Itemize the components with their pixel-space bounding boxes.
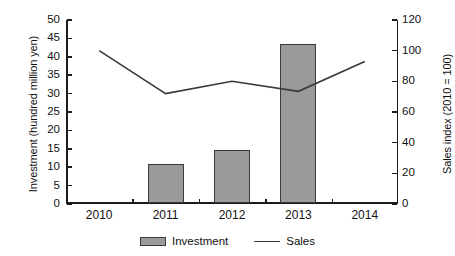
- chart-legend: Investment Sales: [0, 231, 455, 251]
- y-axis-right-tick-label: 100: [402, 45, 426, 56]
- y-axis-left-tick-labels: 50454035302520151050: [24, 0, 60, 256]
- y-axis-right-tick-label: 0: [402, 198, 426, 209]
- y-axis-left-tick-label: 0: [38, 198, 60, 209]
- y-axis-right-tick-label: 40: [402, 137, 426, 148]
- y-axis-right-tick-label: 120: [402, 14, 426, 25]
- legend-item-sales: Sales: [254, 235, 315, 247]
- y-axis-left-tick-label: 5: [38, 180, 60, 191]
- y-axis-left-tick-label: 30: [38, 88, 60, 99]
- line-series-sales: [66, 20, 398, 204]
- plot-area: [66, 20, 398, 204]
- legend-label-sales: Sales: [286, 235, 315, 247]
- x-axis-label-2012: 2012: [209, 208, 255, 222]
- x-axis-label-2010: 2010: [76, 208, 122, 222]
- legend-item-investment: Investment: [140, 235, 228, 247]
- chart-figure: Investment (hundred million yen) Sales i…: [0, 0, 455, 256]
- y-axis-left-tick-label: 10: [38, 161, 60, 172]
- y-axis-left-tick-label: 20: [38, 124, 60, 135]
- y-axis-left-tick-label: 50: [38, 14, 60, 25]
- legend-bar-swatch-icon: [140, 237, 166, 246]
- x-axis-label-2014: 2014: [342, 208, 388, 222]
- y-axis-left-tick-label: 45: [38, 32, 60, 43]
- y-axis-right-tick-label: 80: [402, 75, 426, 86]
- y-axis-right-tick-labels: 120100806040200: [402, 0, 432, 256]
- y-axis-left-tick-label: 35: [38, 69, 60, 80]
- x-axis-label-2011: 2011: [143, 208, 189, 222]
- y-axis-left-tick-label: 25: [38, 106, 60, 117]
- y-axis-left-tick-label: 15: [38, 143, 60, 154]
- y-axis-right-tick-label: 60: [402, 106, 426, 117]
- x-axis-category-labels: 20102011201220132014: [66, 208, 398, 226]
- legend-label-investment: Investment: [172, 235, 228, 247]
- y-axis-right-tick-label: 20: [402, 167, 426, 178]
- legend-line-swatch-icon: [254, 241, 280, 242]
- y-axis-right-title: Sales index (2010 = 100): [441, 19, 453, 209]
- x-axis-label-2013: 2013: [275, 208, 321, 222]
- y-axis-left-tick-label: 40: [38, 51, 60, 62]
